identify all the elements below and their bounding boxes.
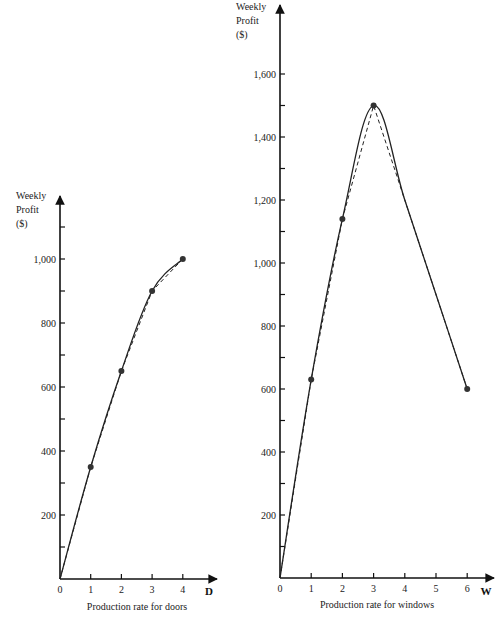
y-tick-label: 1,000 xyxy=(254,258,277,269)
y-tick-label: 200 xyxy=(261,510,276,521)
y-tick-label: 1,000 xyxy=(34,254,57,265)
x-tick-label: 1 xyxy=(88,584,93,595)
x-tick-label: 2 xyxy=(119,584,124,595)
x-tick-label: 5 xyxy=(434,583,439,594)
data-point xyxy=(308,377,314,383)
y-tick-label: 1,600 xyxy=(254,69,277,80)
y-tick-label: 1,400 xyxy=(254,132,277,143)
data-point xyxy=(339,216,345,222)
windows-points xyxy=(308,103,470,393)
y-tick-label: 400 xyxy=(41,446,56,457)
windows-x-variable: W xyxy=(481,585,492,597)
y-tick-label: 800 xyxy=(261,321,276,332)
data-point xyxy=(118,368,124,374)
windows-x-axis-title: Production rate for windows xyxy=(320,599,434,610)
data-point xyxy=(149,288,155,294)
doors-x-variable: D xyxy=(205,585,213,597)
y-tick-label: 1,200 xyxy=(254,195,277,206)
windows-y-axis-title: Weekly Profit ($) xyxy=(236,1,266,41)
doors-profit-chart: 2004006008001,000 01234 Weekly Profit ($… xyxy=(16,190,217,612)
data-point xyxy=(464,386,470,392)
doors-ylabel-line-3: ($) xyxy=(16,218,28,230)
windows-ylabel-line-1: Weekly xyxy=(236,1,266,12)
windows-ylabel-line-3: ($) xyxy=(236,29,248,41)
x-tick-label: 4 xyxy=(402,583,407,594)
piecewise-linear-approximation-line xyxy=(280,106,467,579)
doors-ylabel-line-2: Profit xyxy=(16,204,39,215)
doors-x-ticks: 01234 xyxy=(58,574,186,595)
data-point xyxy=(180,256,186,262)
y-tick-label: 200 xyxy=(41,510,56,521)
profit-curve-line xyxy=(60,259,183,579)
doors-x-axis-title: Production rate for doors xyxy=(87,601,187,612)
data-point xyxy=(371,103,377,109)
profit-curve-line xyxy=(280,105,467,578)
y-tick-label: 600 xyxy=(261,384,276,395)
windows-profit-chart: 2004006008001,0001,2001,4001,600 0123456… xyxy=(236,1,494,610)
y-tick-label: 400 xyxy=(261,447,276,458)
x-tick-label: 3 xyxy=(150,584,155,595)
x-tick-label: 6 xyxy=(465,583,470,594)
x-tick-label: 0 xyxy=(278,583,283,594)
x-tick-label: 4 xyxy=(180,584,185,595)
doors-y-axis-title: Weekly Profit ($) xyxy=(16,190,46,230)
x-tick-label: 0 xyxy=(58,584,63,595)
windows-ylabel-line-2: Profit xyxy=(236,15,259,26)
x-tick-label: 2 xyxy=(340,583,345,594)
y-tick-label: 600 xyxy=(41,382,56,393)
x-tick-label: 3 xyxy=(371,583,376,594)
piecewise-linear-approximation-line xyxy=(60,259,183,579)
windows-series xyxy=(280,105,467,578)
chart-canvas: 2004006008001,000 01234 Weekly Profit ($… xyxy=(0,0,495,621)
windows-x-ticks: 0123456 xyxy=(278,573,470,594)
x-tick-label: 1 xyxy=(309,583,314,594)
y-tick-label: 800 xyxy=(41,318,56,329)
doors-series xyxy=(60,259,183,579)
doors-ylabel-line-1: Weekly xyxy=(16,190,46,201)
data-point xyxy=(88,464,94,470)
doors-points xyxy=(88,256,186,470)
